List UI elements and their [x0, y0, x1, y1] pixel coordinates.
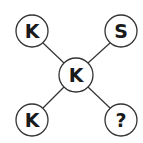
edge-center-bottom-right — [88, 87, 110, 108]
node-label: K — [69, 64, 85, 86]
letter-puzzle-diagram: K S K K ? — [0, 0, 143, 143]
edge-center-top-left — [43, 43, 64, 63]
edge-center-top-right — [88, 43, 110, 63]
node-label: K — [25, 20, 41, 42]
edge-center-bottom-left — [43, 87, 64, 108]
node-label: S — [114, 20, 128, 42]
node-top-left: K — [16, 15, 48, 47]
node-bottom-left: K — [16, 104, 48, 136]
node-bottom-right: ? — [105, 104, 137, 136]
node-top-right: S — [105, 15, 137, 47]
node-label: K — [25, 109, 41, 131]
node-label-question: ? — [115, 109, 126, 131]
node-center: K — [59, 58, 93, 92]
